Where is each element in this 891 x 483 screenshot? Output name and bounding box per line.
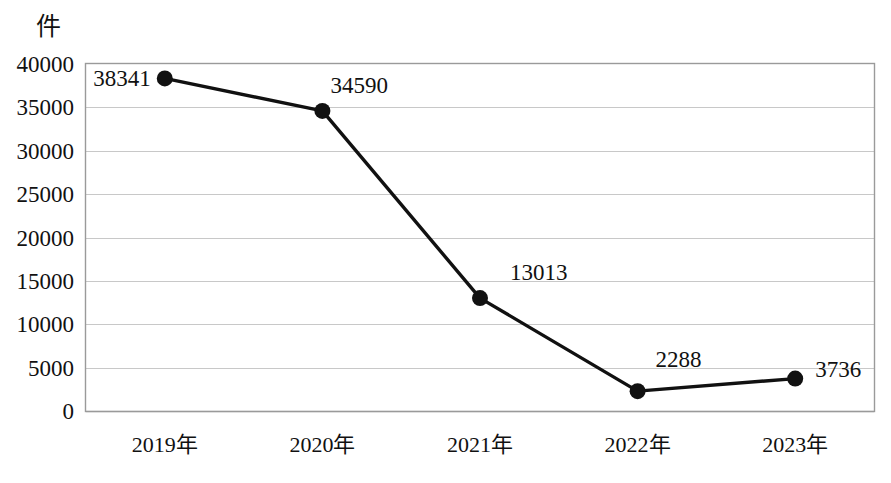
x-axis-tick-labels: 2019年2020年2021年2022年2023年 <box>0 0 891 483</box>
x-axis-tick-label: 2023年 <box>762 434 828 456</box>
line-chart: 件 05000100001500020000250003000035000400… <box>0 0 891 483</box>
x-axis-tick-label: 2019年 <box>132 434 198 456</box>
x-axis-tick-label: 2020年 <box>289 434 355 456</box>
x-axis-tick-label: 2022年 <box>605 434 671 456</box>
x-axis-tick-label: 2021年 <box>447 434 513 456</box>
